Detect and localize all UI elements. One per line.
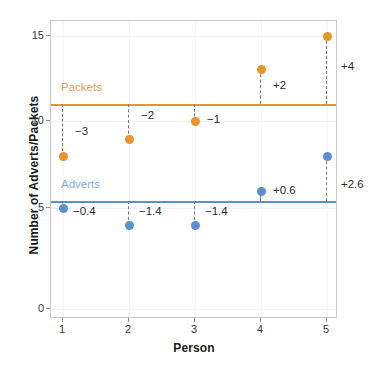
- packets-residual-label-3: −1: [207, 113, 220, 125]
- adverts-point-4[interactable]: [257, 187, 266, 196]
- adverts-series-label: Adverts: [61, 178, 100, 190]
- packets-point-4[interactable]: [257, 65, 266, 74]
- packets-residual-line-1: [62, 104, 63, 156]
- x-tick-label-5: 5: [314, 323, 338, 335]
- adverts-point-3[interactable]: [191, 221, 200, 230]
- packets-point-1[interactable]: [59, 152, 68, 161]
- x-tick-label-1: 1: [50, 323, 74, 335]
- packets-point-3[interactable]: [191, 117, 200, 126]
- x-tick-mark-3: [194, 318, 195, 322]
- packets-residual-label-4: +2: [273, 79, 286, 91]
- x-tick-label-4: 4: [248, 323, 272, 335]
- adverts-residual-label-2: −1.4: [139, 205, 162, 217]
- y-tick-label-0: 0: [18, 302, 44, 314]
- adverts-residual-label-5: +2.6: [341, 178, 364, 190]
- x-tick-mark-1: [62, 318, 63, 322]
- y-tick-label-5: 5: [18, 201, 44, 213]
- y-tick-label-10: 10: [18, 114, 44, 126]
- vgridline-3: [195, 21, 196, 317]
- vgridline-1: [63, 21, 64, 317]
- x-tick-label-3: 3: [182, 323, 206, 335]
- x-tick-mark-5: [326, 318, 327, 322]
- packets-residual-line-5: [326, 36, 327, 104]
- y-tick-label-15: 15: [18, 29, 44, 41]
- packets-residual-line-2: [128, 104, 129, 139]
- x-axis-title: Person: [50, 341, 338, 355]
- adverts-residual-label-1: −0.4: [73, 205, 96, 217]
- packets-point-2[interactable]: [125, 135, 134, 144]
- packets-series-label: Packets: [61, 81, 102, 93]
- vgridline-2: [129, 21, 130, 317]
- adverts-residual-label-4: +0.6: [273, 184, 296, 196]
- packets-residual-label-5: +4: [341, 60, 354, 72]
- gridline-15: [51, 36, 336, 37]
- packets-point-5[interactable]: [323, 32, 332, 41]
- packets-residual-line-4: [260, 69, 261, 104]
- adverts-residual-label-3: −1.4: [205, 205, 228, 217]
- x-tick-label-2: 2: [116, 323, 140, 335]
- adverts-point-2[interactable]: [125, 221, 134, 230]
- gridline-0: [51, 309, 336, 310]
- y-axis-title: Number of Adverts/Packets: [27, 75, 41, 275]
- packets-residual-label-2: −2: [141, 109, 154, 121]
- adverts-residual-line-5: [326, 156, 327, 201]
- packets-residual-label-1: −3: [75, 125, 88, 137]
- x-tick-mark-2: [128, 318, 129, 322]
- adverts-point-1[interactable]: [59, 204, 68, 213]
- x-tick-mark-4: [260, 318, 261, 322]
- scatter-residual-chart: Number of Adverts/Packets Person 15 10 5…: [0, 0, 376, 365]
- plot-panel: Packets −3 −2 −1 +2 Adverts −: [50, 20, 337, 318]
- adverts-point-5[interactable]: [323, 152, 332, 161]
